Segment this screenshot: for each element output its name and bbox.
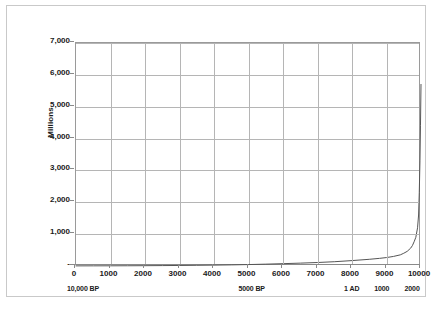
y-axis-tick-label: 6,000 [22, 69, 70, 77]
vertical-gridline [214, 43, 215, 264]
x-axis-tick-mark [212, 264, 213, 268]
y-axis-tick-label: 4,000 [22, 133, 70, 141]
y-axis-tick-mark [69, 168, 74, 169]
y-axis-tick-mark [69, 41, 74, 42]
y-axis-tick-mark [69, 73, 74, 74]
vertical-gridline [249, 43, 250, 264]
vertical-gridline [111, 43, 112, 264]
y-axis-tick-mark [69, 105, 74, 106]
horizontal-gridline [76, 202, 419, 203]
y-axis-tick-label: 5,000 [22, 101, 70, 109]
x-axis-tick-mark [350, 264, 351, 268]
x-axis-tick-label: 10000 [399, 269, 433, 278]
y-axis-tick-label: 7,000 [22, 37, 70, 45]
x-axis-era-annotation: 10,000 BP [53, 285, 113, 293]
x-axis-tick-mark [247, 264, 248, 268]
x-axis-tick-mark [74, 264, 75, 268]
y-axis-tick-labels: 7,0006,0005,0004,0003,0002,0001,000- [15, 6, 70, 298]
y-axis-tick-label: 3,000 [22, 164, 70, 172]
vertical-gridline [145, 43, 146, 264]
horizontal-gridline [76, 107, 419, 108]
vertical-gridline [283, 43, 284, 264]
y-axis-tick-mark [69, 232, 74, 233]
horizontal-gridline [76, 170, 419, 171]
x-axis-tick-mark [419, 264, 420, 268]
vertical-gridline [387, 43, 388, 264]
chart-frame: Millions 7,0006,0005,0004,0003,0002,0001… [6, 5, 426, 297]
y-axis-tick-mark [69, 137, 74, 138]
horizontal-gridline [76, 43, 419, 44]
vertical-gridline [318, 43, 319, 264]
y-axis-tick-label: 1,000 [22, 228, 70, 236]
horizontal-gridline [76, 75, 419, 76]
x-axis-tick-mark [385, 264, 386, 268]
x-axis-tick-mark [316, 264, 317, 268]
vertical-gridline [352, 43, 353, 264]
x-axis-era-annotation: 2000 [382, 285, 433, 293]
y-axis-tick-label: 2,000 [22, 196, 70, 204]
horizontal-gridline [76, 139, 419, 140]
x-axis-tick-mark [109, 264, 110, 268]
vertical-gridline [180, 43, 181, 264]
x-axis-tick-mark [178, 264, 179, 268]
x-axis-era-annotation: 5000 BP [222, 285, 282, 293]
horizontal-gridline [76, 234, 419, 235]
y-axis-tick-mark [69, 200, 74, 201]
x-axis-tick-mark [281, 264, 282, 268]
plot-area [75, 42, 420, 265]
y-axis-tick-label: - [22, 260, 70, 268]
x-axis-tick-mark [143, 264, 144, 268]
